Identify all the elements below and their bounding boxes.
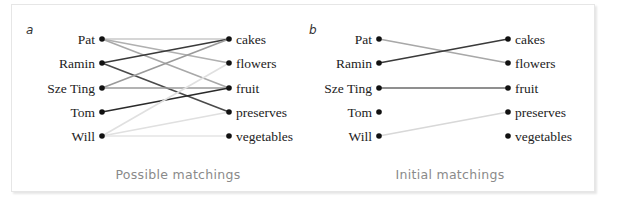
right-node-cakes: cakes — [505, 32, 545, 47]
left-node-will: Will — [349, 129, 382, 144]
node-label: fruit — [515, 81, 538, 96]
node-dot-icon — [505, 85, 511, 91]
node-label: Ramin — [336, 56, 372, 71]
node-dot-icon — [376, 109, 382, 115]
right-node-preserves: preserves — [505, 105, 566, 120]
right-node-flowers: flowers — [226, 56, 276, 71]
node-dot-icon — [226, 133, 232, 139]
right-node-fruit: fruit — [505, 81, 538, 96]
node-label: fruit — [236, 81, 259, 96]
node-label: preserves — [236, 105, 287, 120]
node-dot-icon — [376, 85, 382, 91]
node-dot-icon — [226, 85, 232, 91]
right-node-vegetables: vegetables — [505, 129, 572, 144]
node-label: Will — [349, 129, 373, 144]
panel-a: a PatRaminSze TingTomWill cakesflowersfr… — [26, 23, 293, 182]
node-dot-icon — [226, 60, 232, 66]
bipartite-matching-figure: a PatRaminSze TingTomWill cakesflowersfr… — [0, 0, 622, 198]
left-node-ramin: Ramin — [336, 56, 382, 71]
node-dot-icon — [505, 109, 511, 115]
node-label: vegetables — [236, 129, 293, 144]
edge-will-preserves — [102, 112, 229, 136]
node-label: Will — [72, 129, 96, 144]
node-dot-icon — [376, 36, 382, 42]
node-dot-icon — [505, 36, 511, 42]
node-dot-icon — [376, 133, 382, 139]
left-nodes-a: PatRaminSze TingTomWill — [47, 32, 104, 144]
node-dot-icon — [226, 36, 232, 42]
node-dot-icon — [99, 133, 105, 139]
right-nodes-a: cakesflowersfruitpreservesvegetables — [226, 32, 293, 144]
node-dot-icon — [226, 109, 232, 115]
node-label: Sze Ting — [324, 81, 372, 96]
node-label: Pat — [355, 32, 373, 47]
panel-label-b: b — [309, 23, 317, 37]
caption-initial-matchings: Initial matchings — [395, 167, 504, 182]
node-label: Pat — [78, 32, 96, 47]
node-label: Ramin — [59, 56, 95, 71]
node-dot-icon — [99, 109, 105, 115]
edge-will-flowers — [102, 63, 229, 136]
node-dot-icon — [99, 36, 105, 42]
left-node-will: Will — [72, 129, 105, 144]
left-nodes-b: PatRaminSze TingTomWill — [324, 32, 381, 144]
left-node-tom: Tom — [347, 105, 381, 120]
node-dot-icon — [505, 133, 511, 139]
node-label: cakes — [515, 32, 545, 47]
node-dot-icon — [99, 85, 105, 91]
node-dot-icon — [99, 60, 105, 66]
node-label: Tom — [347, 105, 372, 120]
edges-a — [102, 39, 229, 136]
edge-will-preserves — [379, 112, 508, 136]
left-node-sze-ting: Sze Ting — [324, 81, 381, 96]
edges-b — [379, 39, 508, 136]
panel-b: b PatRaminSze TingTomWill cakesflowersfr… — [309, 23, 572, 182]
right-node-preserves: preserves — [226, 105, 287, 120]
left-node-sze-ting: Sze Ting — [47, 81, 104, 96]
right-node-vegetables: vegetables — [226, 129, 293, 144]
left-node-pat: Pat — [355, 32, 382, 47]
node-label: preserves — [515, 105, 566, 120]
right-node-flowers: flowers — [505, 56, 555, 71]
node-dot-icon — [505, 60, 511, 66]
node-label: vegetables — [515, 129, 572, 144]
node-label: Tom — [70, 105, 95, 120]
right-node-fruit: fruit — [226, 81, 259, 96]
caption-possible-matchings: Possible matchings — [115, 167, 240, 182]
node-dot-icon — [376, 60, 382, 66]
right-node-cakes: cakes — [226, 32, 266, 47]
left-node-pat: Pat — [78, 32, 105, 47]
node-label: flowers — [236, 56, 277, 71]
right-nodes-b: cakesflowersfruitpreservesvegetables — [505, 32, 572, 144]
panel-label-a: a — [26, 23, 33, 37]
node-label: flowers — [515, 56, 556, 71]
left-node-ramin: Ramin — [59, 56, 105, 71]
left-node-tom: Tom — [70, 105, 104, 120]
node-label: Sze Ting — [47, 81, 95, 96]
node-label: cakes — [236, 32, 266, 47]
